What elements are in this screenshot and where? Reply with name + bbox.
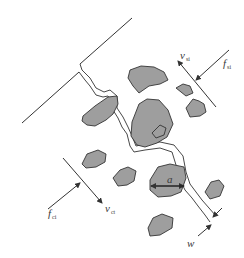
particle	[128, 66, 168, 93]
particle	[186, 99, 206, 117]
label-f-bottom: fci	[48, 208, 56, 220]
particle	[148, 214, 173, 236]
particle	[176, 84, 193, 96]
particle	[205, 180, 224, 199]
particle	[82, 150, 106, 168]
label-v-top: vsi	[180, 50, 190, 62]
label-v-bottom: vct	[105, 203, 115, 215]
label-crack-width: w	[187, 238, 194, 249]
particle	[131, 99, 173, 147]
diagram-canvas: vsi fsi fci vct a w	[0, 0, 244, 258]
particle	[113, 167, 136, 186]
particle	[82, 96, 118, 126]
label-f-top: fsi	[223, 58, 231, 70]
label-particle-size: a	[167, 174, 173, 185]
